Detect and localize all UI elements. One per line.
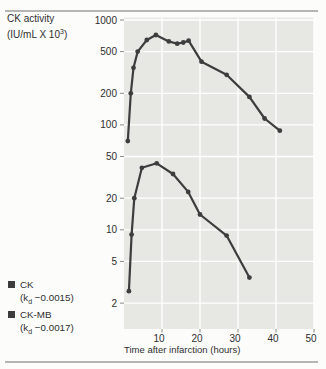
data-point (181, 40, 186, 45)
ck-kd-value: −0.0015) (32, 292, 74, 303)
data-point (224, 72, 229, 77)
x-tick-label: 30 (229, 333, 241, 344)
y-axis-tick-labels: 100050020010050201052 (95, 15, 118, 309)
data-point (262, 116, 267, 121)
y-tick-label: 1000 (95, 15, 118, 26)
y-tick-label: 2 (111, 298, 117, 309)
data-point (128, 91, 133, 96)
x-tick-label: 40 (267, 333, 279, 344)
y-tick-label: 10 (106, 224, 118, 235)
y-tick-label: 500 (100, 46, 117, 57)
data-point (247, 275, 252, 280)
x-tick-label: 50 (305, 333, 317, 344)
data-point (186, 38, 191, 43)
data-point (135, 49, 140, 54)
data-point (224, 233, 229, 238)
data-point (277, 128, 282, 133)
figure: CK activity (IU/mL X 103) 10005002001005… (0, 0, 326, 369)
data-point (140, 165, 145, 170)
y-tick-label: 200 (100, 88, 117, 99)
data-point (247, 95, 252, 100)
data-point (132, 196, 137, 201)
ck-mb-kd-label: (kd −0.0017) (8, 321, 74, 338)
data-point (166, 39, 171, 44)
data-point (171, 172, 176, 177)
plot-area (124, 18, 314, 330)
data-point (198, 212, 203, 217)
legend: CK (kd −0.0015) CK-MB (kd −0.0017) (8, 278, 74, 338)
data-point (129, 232, 134, 237)
x-axis-tick-labels: 1020304050 (153, 333, 317, 344)
ck-legend-label: CK (20, 278, 34, 291)
data-point (125, 139, 130, 144)
data-point (186, 190, 191, 195)
data-point (154, 33, 159, 38)
legend-item-ck-mb: CK-MB (8, 308, 74, 321)
ck-mb-legend-swatch (8, 311, 15, 318)
data-point (144, 38, 149, 43)
bottom-rule (5, 361, 318, 363)
x-axis-title: Time after infarction (hours) (124, 344, 240, 355)
ck-mb-kd-value: −0.0017) (32, 322, 74, 333)
ck-legend-swatch (8, 281, 15, 288)
data-point (154, 161, 159, 166)
data-point (126, 289, 131, 294)
ck-mb-legend-label: CK-MB (20, 308, 52, 321)
data-point (175, 41, 180, 46)
y-tick-label: 50 (106, 151, 118, 162)
ck-kd-prefix: (k (20, 292, 28, 303)
data-point (131, 65, 136, 70)
ck-kd-label: (kd −0.0015) (8, 291, 74, 308)
x-tick-label: 10 (153, 333, 165, 344)
ck-mb-kd-prefix: (k (20, 322, 28, 333)
data-point (199, 59, 204, 64)
legend-item-ck: CK (8, 278, 74, 291)
y-tick-label: 20 (106, 193, 118, 204)
x-tick-label: 20 (191, 333, 203, 344)
y-tick-label: 5 (111, 256, 117, 267)
y-tick-label: 100 (100, 119, 117, 130)
